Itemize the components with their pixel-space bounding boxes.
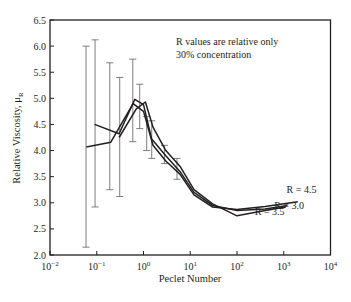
x-tick-label: 104 (324, 260, 338, 272)
x-axis-label: Peclet Number (159, 273, 222, 284)
x-tick-label: 10−2 (41, 260, 59, 272)
x-tick-label: 101 (184, 260, 198, 272)
y-tick-label: 5.0 (34, 93, 47, 104)
error-bars (83, 40, 181, 247)
y-tick-label: 4.0 (34, 145, 47, 156)
x-axis-ticks: 10−210−1100101102103104 (41, 251, 337, 272)
series-line-4-5 (86, 104, 297, 210)
series-label: R = 3.5 (255, 206, 285, 217)
series-line-3-0 (95, 99, 288, 210)
x-tick-label: 10−1 (88, 260, 106, 272)
y-tick-label: 2.5 (34, 223, 47, 234)
x-tick-label: 100 (137, 260, 151, 272)
y-tick-label: 2.0 (34, 250, 47, 261)
peclet-viscosity-chart: 2.02.53.03.54.04.55.05.56.06.5 10−210−11… (0, 0, 351, 302)
y-tick-label: 3.5 (34, 171, 47, 182)
x-tick-label: 102 (230, 260, 244, 272)
y-axis-ticks: 2.02.53.03.54.04.55.05.56.06.5 (34, 15, 55, 261)
y-tick-label: 3.0 (34, 197, 47, 208)
series-labels: R = 4.5R = 3.0R = 3.5 (255, 184, 317, 217)
y-tick-label: 6.5 (34, 15, 47, 26)
series-label: R = 4.5 (287, 184, 317, 195)
annotation-text: R values are relative only (176, 36, 278, 47)
data-series (86, 99, 297, 215)
y-axis-label: Relative Viscosity, μR (11, 92, 25, 184)
chart-container: 2.02.53.03.54.04.55.05.56.06.5 10−210−11… (0, 0, 351, 302)
y-tick-label: 5.5 (34, 67, 47, 78)
y-tick-label: 6.0 (34, 41, 47, 52)
x-tick-label: 103 (277, 260, 291, 272)
annotations: R values are relative only30% concentrat… (176, 36, 278, 60)
annotation-text: 30% concentration (176, 49, 251, 60)
y-tick-label: 4.5 (34, 119, 47, 130)
